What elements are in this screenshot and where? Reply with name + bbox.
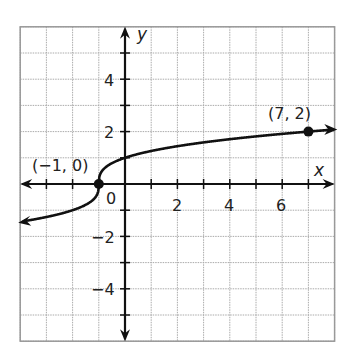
point-marker [303,127,313,137]
cube-root-graph: y x 0 2 4 6 4 2 −2 −4 (−1, 0) (7, 2) [0,0,348,361]
y-tick-label-neg4: −4 [91,280,115,299]
y-tick-label-4: 4 [104,71,114,90]
x-axis-label: x [313,160,325,180]
x-tick-label-6: 6 [276,196,286,215]
y-tick-label-neg2: −2 [91,228,115,247]
y-tick-label-2: 2 [104,123,114,142]
point-label-7-2: (7, 2) [268,104,311,123]
axes [18,27,337,341]
point-marker [94,179,104,189]
x-tick-label-4: 4 [224,196,234,215]
origin-label: 0 [106,189,116,208]
x-tick-label-2: 2 [172,196,182,215]
point-label-neg1-0: (−1, 0) [32,156,88,175]
y-axis-label: y [136,24,148,44]
